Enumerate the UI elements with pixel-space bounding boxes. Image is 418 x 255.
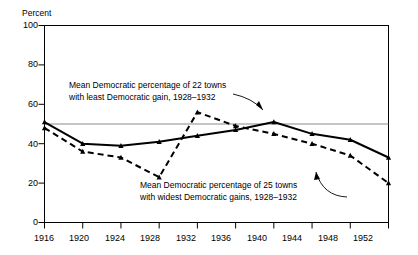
data-series-group	[42, 109, 391, 185]
annotation-arrowhead-least-gain	[256, 101, 263, 110]
data-point-marker	[348, 153, 353, 158]
x-axis-ticks	[45, 223, 389, 229]
chart-figure: Percent 100 80 60 40 20 0 1916 1920 1924…	[0, 0, 418, 255]
data-series	[42, 109, 391, 185]
plot-area	[0, 0, 418, 255]
data-point-marker	[42, 119, 47, 124]
series-line-widest-gains	[45, 112, 389, 183]
data-point-marker	[42, 125, 47, 130]
series-line-least-gain	[45, 122, 389, 157]
annotation-leaders	[233, 94, 347, 197]
data-series	[42, 119, 391, 159]
annotation-arrowhead-widest-gains	[314, 172, 320, 180]
annotation-leader-widest-gains	[316, 172, 347, 197]
